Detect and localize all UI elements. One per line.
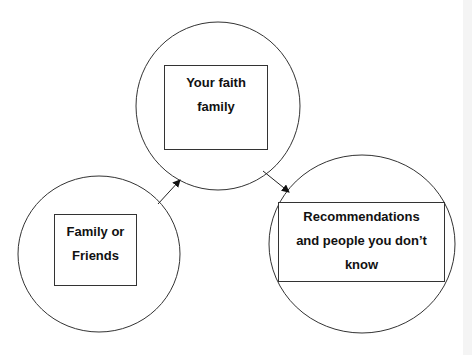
node-recommendations: Recommendations and people you don’t kno… <box>278 202 445 282</box>
node-label-line: know <box>345 253 378 277</box>
node-label-line: Friends <box>72 244 119 268</box>
node-faith-family: Your faith family <box>164 65 268 150</box>
node-label-line: and people you don’t <box>296 229 427 253</box>
node-family-friends: Family or Friends <box>54 214 137 286</box>
diagram-canvas <box>0 0 472 355</box>
node-label-line: family <box>197 95 235 119</box>
node-label-line: Recommendations <box>303 205 419 229</box>
node-label-line: Your faith <box>186 71 246 95</box>
arrow-icon-to-faith-family <box>158 180 180 204</box>
node-label-line: Family or <box>67 220 125 244</box>
arrow-icon-to-recommendations <box>263 171 289 192</box>
